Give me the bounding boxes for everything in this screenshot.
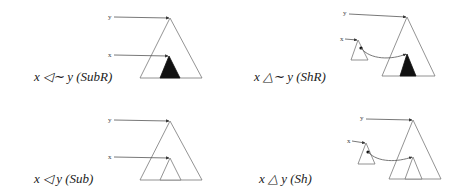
subtree-x-filled: [160, 56, 180, 78]
panel-sh: x △ y (Sh) y x: [258, 114, 441, 186]
diagram-canvas: x ◁∼ y (SubR) y x x △∼ y (ShR) y x x ◁ y…: [0, 0, 455, 194]
shared-subtree-filled: [400, 54, 416, 76]
sharing-pointer-curve: [361, 48, 406, 58]
relation-label-shr: x △∼ y (ShR): [253, 69, 326, 84]
panel-shr: x △∼ y (ShR) y x: [253, 9, 435, 84]
external-tree-x: [351, 40, 368, 60]
pointer-arrow-x: [352, 141, 365, 143]
sharing-pointer-curve: [368, 152, 412, 161]
external-tree-x: [358, 143, 375, 164]
panel-sub: x ◁ y (Sub) y x: [33, 116, 202, 186]
pointer-arrow-y: [114, 17, 169, 18]
subtree-x: [160, 158, 181, 180]
pointer-label-y: y: [108, 13, 112, 21]
pointer-arrow-x: [345, 39, 357, 40]
pointer-label-y: y: [360, 114, 364, 122]
pointer-label-x: x: [108, 153, 112, 161]
pointer-arrow-x: [114, 55, 168, 56]
pointer-arrow-x: [114, 157, 169, 158]
relation-label-subr: x ◁∼ y (SubR): [33, 69, 112, 84]
pointer-label-y: y: [108, 116, 112, 124]
relation-label-sub: x ◁ y (Sub): [33, 171, 93, 186]
pointer-arrow-y: [366, 119, 412, 120]
shared-subtree: [405, 157, 422, 179]
pointer-label-x: x: [108, 51, 112, 59]
pointer-label-x: x: [340, 35, 344, 43]
relation-label-sh: x △ y (Sh): [258, 171, 312, 186]
pointer-label-x: x: [347, 137, 351, 145]
panel-subr: x ◁∼ y (SubR) y x: [33, 13, 202, 84]
pointer-label-y: y: [343, 9, 347, 17]
pointer-arrow-y: [349, 14, 406, 17]
pointer-arrow-y: [114, 120, 169, 121]
